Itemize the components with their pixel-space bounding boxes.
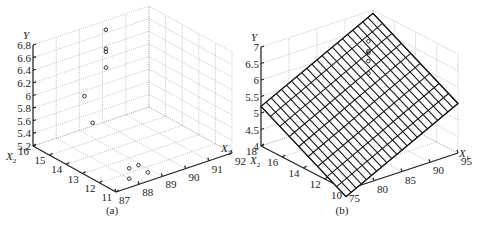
x2-tick-label: 15 xyxy=(35,154,47,166)
z-tick-label: 5.6 xyxy=(17,115,31,127)
z-tick-label: 5.5 xyxy=(245,91,259,103)
z-tick-label: 5.8 xyxy=(17,102,31,114)
panel-caption: (a) xyxy=(106,204,119,217)
z-tick-label: 6.5 xyxy=(245,58,259,70)
x1-tick-label: 87 xyxy=(119,194,131,206)
x2-axis-line xyxy=(33,146,116,192)
x2-tick-label: 14 xyxy=(289,167,301,179)
z-tick-label: 6 xyxy=(26,90,32,102)
x1-tick-label: 90 xyxy=(189,171,201,183)
x1-tick-label: 85 xyxy=(405,174,417,186)
x2-tick-label: 11 xyxy=(101,191,112,203)
data-point xyxy=(104,28,108,32)
x2-tick-label: 16 xyxy=(18,145,30,157)
panel-b-surface-3d: 44.555.566.5718161412107580859095YX2X1(b… xyxy=(245,10,472,217)
z-tick-label: 5 xyxy=(254,107,260,119)
data-point xyxy=(137,163,141,167)
x2-tick-label: 14 xyxy=(51,163,63,175)
data-point xyxy=(104,66,108,70)
data-point xyxy=(127,167,131,171)
x1-tick-label: 75 xyxy=(349,192,361,204)
x1-tick-label: 88 xyxy=(142,186,154,198)
data-point xyxy=(83,94,87,98)
x1-tick-label: 80 xyxy=(377,183,389,195)
data-point xyxy=(127,177,131,181)
x2-tick-label: 12 xyxy=(310,178,321,190)
figure: 5.25.45.65.866.26.46.66.8161514131211878… xyxy=(0,0,482,225)
axes xyxy=(33,44,232,192)
panel-caption: (b) xyxy=(336,204,349,217)
panel-a-scatter-3d: 5.25.45.65.866.26.46.66.8161514131211878… xyxy=(5,6,246,217)
z-tick-label: 6 xyxy=(254,74,260,86)
z-tick-label: 6.2 xyxy=(17,77,31,89)
data-point xyxy=(91,121,95,125)
x1-tick-label: 91 xyxy=(212,163,223,175)
x2-tick-label: 16 xyxy=(267,156,279,168)
x2-tick-label: 13 xyxy=(68,173,80,185)
x2-axis-label: X2 xyxy=(249,154,261,169)
x1-tick-label: 90 xyxy=(433,164,445,176)
z-tick-label: 6.4 xyxy=(17,64,31,76)
z-tick-label: 4.5 xyxy=(245,124,259,136)
z-tick-label: 5.4 xyxy=(17,127,31,139)
x1-tick-label: 89 xyxy=(165,178,177,190)
z-tick-label: 6.6 xyxy=(17,52,31,64)
x1-tick-label: 92 xyxy=(235,155,246,167)
x2-tick-label: 12 xyxy=(84,182,95,194)
x2-axis-label: X2 xyxy=(5,150,17,165)
data-point xyxy=(146,171,150,175)
data-points xyxy=(83,28,150,181)
gridlines xyxy=(33,6,232,192)
